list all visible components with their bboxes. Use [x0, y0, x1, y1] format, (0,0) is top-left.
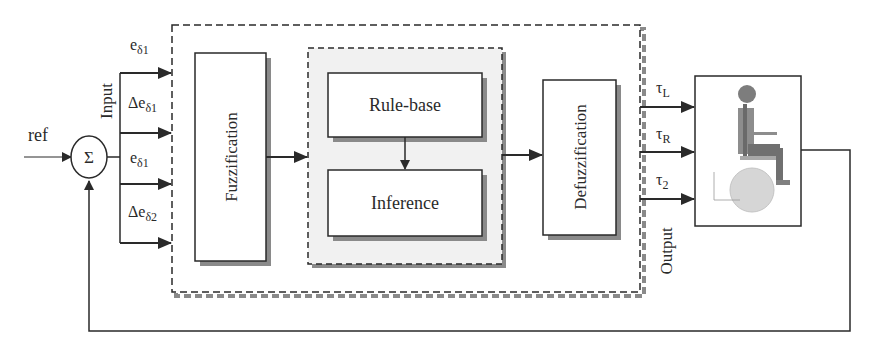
- fuzzification-block[interactable]: Fuzzification: [195, 53, 271, 266]
- output-label-tau-l: τL: [656, 79, 670, 100]
- input-label-1: eδ1: [130, 36, 149, 57]
- ref-label: ref: [28, 125, 48, 145]
- input-group-label: Input: [97, 83, 116, 119]
- inference-label: Inference: [371, 193, 439, 213]
- defuzzification-block[interactable]: Defuzzification: [543, 80, 621, 240]
- output-group-label: Output: [657, 227, 676, 275]
- input-label-4: Δeδ2: [128, 203, 157, 224]
- plant-block[interactable]: [695, 76, 801, 226]
- inference-block[interactable]: Inference: [328, 170, 487, 241]
- fuzzification-label: Fuzzification: [222, 112, 241, 202]
- output-label-tau-2: τ2: [656, 171, 668, 192]
- rule-base-label: Rule-base: [369, 95, 441, 115]
- defuzzification-label: Defuzzification: [571, 104, 590, 210]
- fuzzy-control-block-diagram: Fuzzification Rule-base Inference Defuzz…: [0, 0, 873, 349]
- input-label-3: eδ1: [130, 149, 149, 170]
- output-label-tau-r: τR: [656, 125, 670, 146]
- rule-base-block[interactable]: Rule-base: [328, 73, 487, 142]
- summing-junction: Σ: [71, 136, 107, 178]
- sigma-symbol: Σ: [84, 148, 94, 167]
- input-label-2: Δeδ1: [128, 94, 157, 115]
